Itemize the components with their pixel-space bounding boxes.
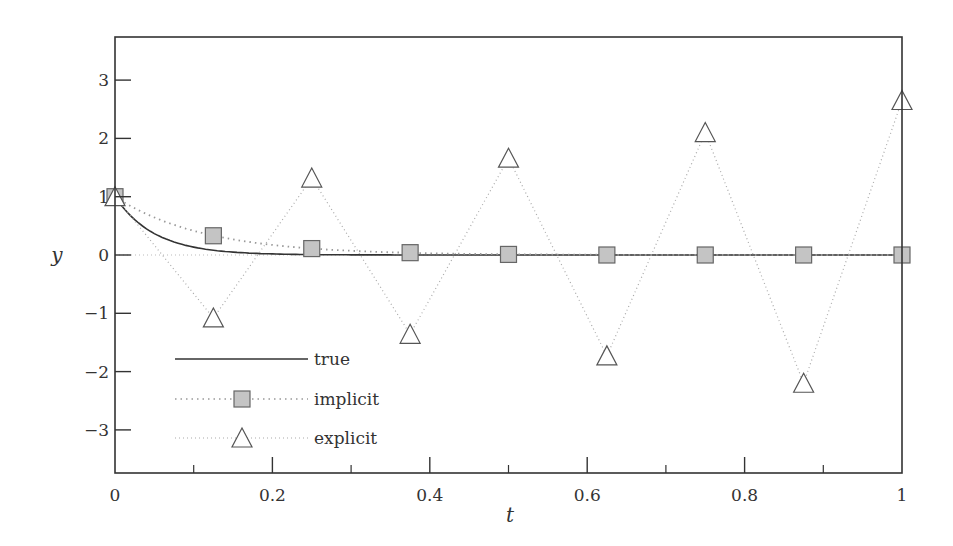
x-axis-label: t — [506, 503, 515, 527]
square-marker-icon — [205, 228, 221, 244]
triangle-marker-icon — [794, 373, 814, 392]
x-tick-label: 0.6 — [574, 485, 601, 505]
y-tick-label: −3 — [84, 420, 109, 440]
legend: true implicit explicit — [175, 349, 379, 448]
x-tick-label: 0.2 — [259, 485, 286, 505]
y-axis: 3210−1−2−3 — [84, 70, 131, 440]
series-explicit-line — [115, 101, 902, 384]
x-tick-label: 0 — [110, 485, 121, 505]
x-tick-label: 0.8 — [731, 485, 758, 505]
triangle-marker-icon — [695, 123, 715, 142]
x-axis: 00.20.40.60.81 — [110, 457, 908, 505]
y-tick-label: 2 — [98, 128, 109, 148]
legend-item-implicit: implicit — [175, 389, 379, 409]
y-tick-label: 3 — [98, 70, 109, 90]
square-marker-icon — [304, 241, 320, 257]
legend-label: implicit — [314, 389, 379, 409]
square-marker-icon — [697, 247, 713, 263]
y-tick-label: 0 — [98, 245, 109, 265]
x-tick-label: 0.4 — [416, 485, 443, 505]
legend-label: true — [314, 349, 350, 369]
plot-markers — [105, 91, 912, 393]
triangle-marker-icon — [499, 148, 519, 167]
y-tick-label: −2 — [84, 362, 109, 382]
square-marker-icon — [402, 245, 418, 261]
square-marker-icon — [501, 246, 517, 262]
chart: 3210−1−2−3 00.20.40.60.81 y t true impli… — [0, 0, 953, 546]
square-marker-icon — [234, 391, 250, 407]
square-marker-icon — [796, 247, 812, 263]
y-axis-label: y — [50, 243, 63, 267]
triangle-marker-icon — [203, 308, 223, 327]
triangle-marker-icon — [400, 324, 420, 343]
legend-item-true: true — [175, 349, 350, 369]
plot-series — [115, 101, 902, 384]
legend-item-explicit: explicit — [175, 428, 377, 448]
triangle-marker-icon — [597, 346, 617, 365]
square-marker-icon — [599, 247, 615, 263]
legend-label: explicit — [314, 428, 377, 448]
y-tick-label: −1 — [84, 303, 109, 323]
x-tick-label: 1 — [897, 485, 908, 505]
y-tick-label: 1 — [98, 187, 109, 207]
triangle-marker-icon — [302, 168, 322, 187]
